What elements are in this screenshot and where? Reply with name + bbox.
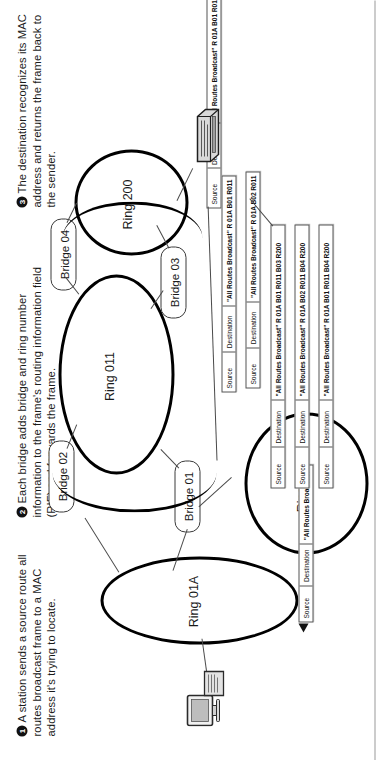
destination-station[interactable]	[188, 106, 226, 164]
frame-b01-r011-b03-r200-destination: Destination	[271, 399, 284, 446]
frame-b01-r011-b04-r200[interactable]: Source Destination "All Routes Broadcast…	[318, 224, 333, 488]
step-2-number: 2	[16, 506, 27, 517]
connector-ring01a-bridge02	[84, 517, 119, 572]
frame-b02-r011-b04-r200-destination: Destination	[295, 399, 308, 446]
frame-path-arc-right	[62, 201, 202, 274]
frame-b01-r011-b04-r200-destination: Destination	[319, 399, 332, 446]
step-3-number: 3	[16, 196, 27, 207]
frame-b01-r01b-rif: "All Routes Broadcast" R 01A B01 R01B	[207, 0, 220, 122]
frame-b01-r01b[interactable]: Source Destination "All Routes Broadcast…	[206, 0, 221, 208]
frame-b01-r011-destination: Destination	[222, 305, 235, 351]
step-1-text: A station sends a source route all route…	[15, 554, 56, 736]
frame-b02-r011-rif: "All Routes Broadcast" R 01A B02 R011	[246, 172, 259, 301]
frame-initial-destination: Destination	[299, 543, 312, 585]
frame-b01-r01b-source: Source	[207, 167, 220, 207]
frame-b01-r011-source: Source	[222, 351, 235, 391]
diagram-stage: 1A station sends a source route all rout…	[0, 0, 381, 760]
step-1-caption: 1A station sends a source route all rout…	[14, 531, 58, 736]
destination-station-icon	[188, 106, 222, 164]
step-3-caption: 3The destination recognizes its MAC addr…	[14, 11, 58, 207]
ring-011-label: Ring 011	[102, 344, 116, 408]
leader-frame-b01-r01b	[207, 206, 217, 460]
frame-b01-r011-b04-r200-rif: "All Routes Broadcast" R 01A B01 R011 B0…	[319, 239, 332, 399]
step-1-number: 1	[16, 725, 27, 736]
frame-path-arc-left	[52, 433, 216, 512]
arrow-initial-frame	[298, 623, 308, 632]
frame-b01-r011-rif: "All Routes Broadcast" R 01A B01 R011	[222, 176, 235, 305]
frame-initial-source: Source	[299, 585, 312, 621]
frame-b02-r011-b04-r200-source: Source	[295, 446, 308, 487]
frame-b01-r011-b03-r200[interactable]: Source Destination "All Routes Broadcast…	[270, 224, 285, 488]
frame-b01-r011-b03-r200-source: Source	[271, 446, 284, 487]
frame-b01-r011-b03-r200-rif: "All Routes Broadcast" R 01A B01 R011 B0…	[271, 239, 284, 399]
ring-01a-label: Ring 01A	[186, 570, 200, 632]
frame-b01-r011-b04-r200-source: Source	[319, 446, 332, 487]
frame-b02-r011-b04-r200[interactable]: Source Destination "All Routes Broadcast…	[294, 224, 309, 488]
step-3-text: The destination recognizes its MAC addre…	[15, 14, 56, 207]
frame-b02-r011-destination: Destination	[246, 301, 259, 347]
frame-b02-r011-b04-r200-rif: "All Routes Broadcast" R 01A B02 R011 B0…	[295, 239, 308, 399]
source-station[interactable]	[184, 668, 234, 726]
page-rule	[374, 0, 375, 760]
frame-b01-r011[interactable]: Source Destination "All Routes Broadcast…	[221, 175, 236, 392]
figure-canvas: 1A station sends a source route all rout…	[0, 0, 381, 760]
frame-b02-r011-source: Source	[246, 347, 259, 387]
source-station-icon	[184, 668, 230, 726]
